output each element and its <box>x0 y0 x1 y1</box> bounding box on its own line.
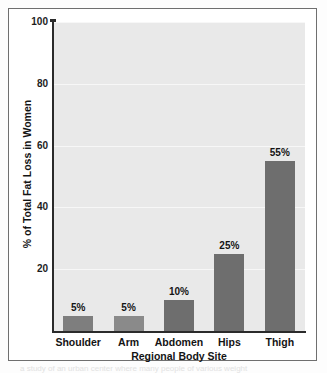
bar-value-label: 55% <box>270 148 290 158</box>
y-axis-cap-icon <box>50 19 56 22</box>
bar-slot: 25% <box>204 22 254 331</box>
bar <box>214 254 244 331</box>
plot-area: 5%5%10%25%55% <box>53 22 305 331</box>
bar-value-label: 5% <box>121 303 135 313</box>
x-axis-line <box>52 331 306 333</box>
scanned-page: 5%5%10%25%55% 10080604020 % of Total Fat… <box>0 0 327 373</box>
caption-bleed-text: a study of an urban center where many pe… <box>20 364 310 373</box>
x-tick-label: Shoulder <box>53 336 103 348</box>
x-tick-label: Arm <box>103 336 153 348</box>
y-axis-title: % of Total Fat Loss in Women <box>21 74 33 274</box>
bar-value-label: 5% <box>71 303 85 313</box>
bar-slot: 5% <box>103 22 153 331</box>
bar <box>164 300 194 331</box>
bar-slot: 5% <box>53 22 103 331</box>
bar-slot: 55% <box>255 22 305 331</box>
bar <box>265 161 295 331</box>
bar-slot: 10% <box>154 22 204 331</box>
x-tick-label: Thigh <box>255 336 305 348</box>
x-tick-label: Hips <box>204 336 254 348</box>
bar <box>63 316 93 331</box>
x-axis-title: Regional Body Site <box>53 350 305 362</box>
x-tick-label: Abdomen <box>154 336 204 348</box>
bar <box>114 316 144 331</box>
bar-value-label: 25% <box>219 241 239 251</box>
y-axis-line <box>52 20 54 333</box>
bar-value-label: 10% <box>169 287 189 297</box>
y-tick-label: 100 <box>4 17 48 27</box>
